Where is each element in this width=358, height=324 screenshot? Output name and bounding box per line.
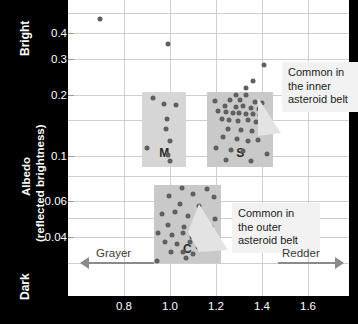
direction-arrow-redder: Redder <box>278 255 344 271</box>
x-axis-tick-label: 1.0 <box>162 300 178 312</box>
y-axis-tick-label: 0.06 <box>45 195 67 207</box>
y-axis-top-label: Bright <box>18 21 32 56</box>
y-axis-tick-label: 0.4 <box>51 27 67 39</box>
arrow-label: Grayer <box>96 247 131 259</box>
arrow-head-icon <box>335 257 344 269</box>
y-axis-title-sub: (reflected brightness) <box>34 124 46 242</box>
y-axis-bottom-label: Dark <box>18 273 32 300</box>
y-axis-title-main: Albedo <box>20 157 32 196</box>
arrow-line <box>88 262 154 264</box>
x-axis-tick-label: 1.4 <box>254 300 270 312</box>
arrow-label: Redder <box>282 247 320 259</box>
annotation-callout-outer-belt: Common in the outer asteroid belt <box>232 203 320 253</box>
y-axis-tick-label: 0.2 <box>51 89 67 101</box>
arrow-line <box>278 262 336 264</box>
direction-arrow-grayer: Grayer <box>80 255 154 271</box>
x-axis-tick-label: 1.2 <box>208 300 224 312</box>
y-axis-tick-label: 0.1 <box>51 150 67 162</box>
y-axis-tick-label: 0.3 <box>51 53 67 65</box>
x-axis-tick-label: 1.6 <box>300 300 316 312</box>
annotation-callout-inner-belt: Common in the inner asteroid belt <box>282 62 358 112</box>
arrow-head-icon <box>80 257 89 269</box>
x-axis-tick-label: 0.8 <box>116 300 132 312</box>
y-axis-tick-label: 0.04 <box>45 231 67 243</box>
